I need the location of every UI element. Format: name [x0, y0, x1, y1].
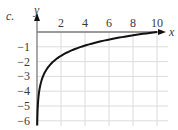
y-tick-label: −5: [17, 99, 30, 113]
y-tick-label: −6: [17, 114, 30, 128]
y-tick-label: −4: [17, 84, 30, 98]
x-tick-label: 6: [106, 16, 112, 30]
axes: [34, 13, 166, 126]
y-axis-label: y: [33, 3, 40, 17]
log-graph: c. y x 246810 −1−2−3−4−5−6: [0, 0, 178, 130]
x-tick-labels: 246810: [58, 16, 163, 30]
x-tick-label: 10: [151, 16, 163, 30]
y-tick-labels: −1−2−3−4−5−6: [17, 40, 30, 128]
x-axis-label: x: [168, 25, 175, 39]
x-tick-label: 8: [130, 16, 136, 30]
problem-label: c.: [6, 9, 14, 23]
x-tick-label: 4: [82, 16, 88, 30]
y-tick-label: −2: [17, 55, 30, 69]
grid-lines: [37, 32, 168, 126]
function-curve: [37, 32, 157, 125]
x-tick-label: 2: [58, 16, 64, 30]
y-tick-label: −1: [17, 40, 30, 54]
y-tick-label: −3: [17, 69, 30, 83]
